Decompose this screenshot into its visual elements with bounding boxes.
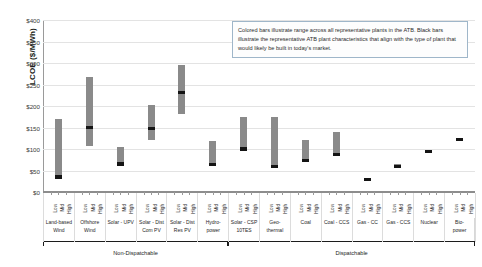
x-subtick-label: Low [145,204,150,213]
category-separator [321,193,322,242]
chart-canvas: LCOE ($/MWh) $400$350$300$250$200$150$10… [0,0,482,267]
x-subtick-label: High [253,204,258,214]
range-bar [240,117,247,150]
representative-marker [271,165,278,168]
representative-marker [86,126,93,129]
x-subtick-label: High [469,204,474,214]
representative-marker [425,150,432,153]
x-subtick-label: Low [454,204,459,213]
x-subtick-label: Mid [183,204,188,212]
gridline [43,85,475,86]
x-category-cell: Offshore Wind [74,218,105,242]
x-category-label: Nuclear [421,219,438,227]
category-separator [136,193,137,242]
x-subtick-label: Low [330,204,335,213]
group-label: Non-Dispatchable [43,250,228,256]
x-category-label: Solar - Dist Com PV [139,219,164,234]
x-subtick-label: High [407,204,412,214]
x-subtick-label: High [160,204,165,214]
category-separator [413,193,414,242]
representative-marker [55,175,62,178]
x-category-cell: Coal - CCS [321,218,352,242]
x-subtick-label: Mid [369,204,374,212]
x-category-label: Coal - CCS [324,219,349,227]
y-axis-tick-labels: $400$350$300$250$200$150$100$50$0 [8,0,40,267]
representative-marker [333,153,340,156]
range-bar [86,77,93,146]
x-subtick-label: High [376,204,381,214]
category-separator [166,193,167,242]
x-subtick-label: Mid [338,204,343,212]
range-bar [55,119,62,178]
representative-marker [456,138,463,141]
x-category-label: Geo- thermal [267,219,284,234]
x-category-label: Coal [301,219,311,227]
gridline [43,63,475,64]
category-separator [197,193,198,242]
x-subtick-label: Low [176,204,181,213]
representative-marker [302,159,309,162]
x-subtick-label: Low [207,204,212,213]
note-box: Colored bars illustrate range across all… [232,21,468,58]
x-subtick-label: High [222,204,227,214]
x-subtick-label: Low [114,204,119,213]
x-category-label: Gas - CC [357,219,378,227]
x-category-cell: Coal [290,218,321,242]
x-axis-group-brackets: Non-DispatchableDispatchable [43,241,475,267]
category-separator [290,193,291,242]
x-axis-line [43,191,475,192]
x-subtick-label: Mid [122,204,127,212]
representative-marker [117,162,124,165]
x-subtick-label: Mid [399,204,404,212]
category-separator [74,193,75,242]
x-category-label: Land-based Wind [46,219,72,234]
group-label: Dispatchable [228,250,475,256]
x-category-cell: Solar - Dist Com PV [136,218,167,242]
x-subtick-label: High [67,204,72,214]
x-category-cell: Solar - UPV [105,218,136,242]
x-category-cell: Gas - CCS [382,218,413,242]
y-tick-label: $300 [10,60,40,67]
x-subtick-label: Low [83,204,88,213]
category-separator [105,193,106,242]
category-separator [352,193,353,242]
x-subtick-label: Low [269,204,274,213]
note-text: Colored bars illustrate range across all… [238,27,456,51]
category-separator [475,193,476,242]
x-category-label: Solar - UPV [107,219,133,227]
x-category-label: Bio- power [453,219,467,234]
y-tick-label: $0 [10,189,40,196]
x-category-label: Offshore Wind [80,219,99,234]
x-category-label: Solar - CSP 10TES [231,219,257,234]
representative-marker [394,165,401,168]
x-subtick-label: High [283,204,288,214]
x-category-cell: Solar - CSP 10TES [228,218,259,242]
x-subtick-label: Mid [307,204,312,212]
x-subtick-label: High [98,204,103,214]
x-subtick-label: Mid [214,204,219,212]
category-separator [382,193,383,242]
x-subtick-label: Mid [153,204,158,212]
x-subtick-label: Mid [430,204,435,212]
gridline [43,128,475,129]
x-subtick-label: Low [361,204,366,213]
category-separator [444,193,445,242]
x-subtick-label: High [345,204,350,214]
range-bar [209,141,216,165]
x-category-cell: Land-based Wind [43,218,74,242]
gridline [43,106,475,107]
x-category-cell: Nuclear [413,218,444,242]
x-subtick-label: High [438,204,443,214]
x-category-label: Hydro- power [206,219,221,234]
range-bar [178,65,185,114]
x-category-cell: Solar - Dist Res PV [166,218,197,242]
x-subtick-label: Low [392,204,397,213]
range-bar [333,132,340,155]
gridline [43,149,475,150]
y-tick-label: $100 [10,146,40,153]
category-separator [228,193,229,242]
y-tick-label: $150 [10,124,40,131]
x-category-label: Gas - CCS [386,219,410,227]
range-bar [271,117,278,167]
x-subtick-label: Low [299,204,304,213]
